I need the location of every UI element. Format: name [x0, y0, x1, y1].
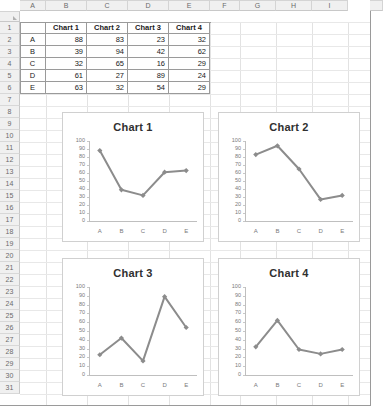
table-cell-B-2[interactable]: 94 — [87, 46, 128, 58]
table-header-chart-3[interactable]: Chart 3 — [128, 22, 169, 34]
table-cell-C-3[interactable]: 16 — [128, 58, 169, 70]
grid-line-horizontal — [20, 106, 370, 107]
row-header-10[interactable]: 10 — [0, 130, 20, 142]
row-header-8[interactable]: 8 — [0, 106, 20, 118]
column-header-a[interactable]: A — [20, 0, 46, 11]
table-cell-A-2[interactable]: 83 — [87, 34, 128, 46]
row-header-9[interactable]: 9 — [0, 118, 20, 130]
table-cell-D-4[interactable]: 24 — [169, 70, 210, 82]
row-header-31[interactable]: 31 — [0, 382, 20, 394]
table-header-chart-1[interactable]: Chart 1 — [46, 22, 87, 34]
column-header-f[interactable]: F — [210, 0, 240, 11]
table-cell-E-4[interactable]: 29 — [169, 82, 210, 94]
chart-plot-2 — [219, 113, 361, 243]
chart-4[interactable]: Chart 41009080706050403020100ABCDE — [218, 258, 360, 396]
chart-1[interactable]: Chart 11009080706050403020100ABCDE — [62, 112, 204, 242]
table-cell-B-3[interactable]: 42 — [128, 46, 169, 58]
row-header-24[interactable]: 24 — [0, 298, 20, 310]
select-all-corner[interactable] — [0, 11, 20, 22]
grid-bottom-border — [0, 405, 371, 406]
row-header-14[interactable]: 14 — [0, 178, 20, 190]
table-row-label-B[interactable]: B — [20, 46, 46, 58]
column-header-g[interactable]: G — [240, 0, 276, 11]
grid-line-horizontal — [20, 94, 370, 95]
table-header-chart-4[interactable]: Chart 4 — [169, 22, 210, 34]
row-header-6[interactable]: 6 — [0, 82, 20, 94]
row-header-30[interactable]: 30 — [0, 370, 20, 382]
series-marker — [340, 347, 345, 352]
table-header-chart-2[interactable]: Chart 2 — [87, 22, 128, 34]
table-top-border — [20, 22, 211, 23]
table-cell-E-2[interactable]: 32 — [87, 82, 128, 94]
row-header-2[interactable]: 2 — [0, 34, 20, 46]
row-header-3[interactable]: 3 — [0, 46, 20, 58]
grid-line-horizontal — [20, 250, 370, 251]
row-header-22[interactable]: 22 — [0, 274, 20, 286]
table-row-label-D[interactable]: D — [20, 70, 46, 82]
column-header-e[interactable]: E — [169, 0, 210, 11]
column-header-partial[interactable] — [370, 0, 383, 11]
table-left-border — [20, 22, 21, 94]
row-header-4[interactable]: 4 — [0, 58, 20, 70]
table-cell-A-1[interactable]: 88 — [46, 34, 87, 46]
row-header-12[interactable]: 12 — [0, 154, 20, 166]
row-header-7[interactable]: 7 — [0, 94, 20, 106]
table-row-label-A[interactable]: A — [20, 34, 46, 46]
row-header-13[interactable]: 13 — [0, 166, 20, 178]
row-header-29[interactable]: 29 — [0, 358, 20, 370]
chart-plot-1 — [63, 113, 205, 243]
table-cell-B-1[interactable]: 39 — [46, 46, 87, 58]
table-cell-E-1[interactable]: 63 — [46, 82, 87, 94]
table-cell-E-3[interactable]: 54 — [128, 82, 169, 94]
table-row-label-C[interactable]: C — [20, 58, 46, 70]
table-cell-B-4[interactable]: 62 — [169, 46, 210, 58]
row-header-25[interactable]: 25 — [0, 310, 20, 322]
series-line — [100, 151, 186, 196]
table-cell-C-4[interactable]: 29 — [169, 58, 210, 70]
chart-plot-3 — [63, 259, 205, 397]
column-header-i[interactable]: I — [312, 0, 348, 11]
spreadsheet-canvas: ABCDEFGHI1234567891011121314151617181920… — [0, 0, 383, 418]
table-cell-D-1[interactable]: 61 — [46, 70, 87, 82]
column-header-c[interactable]: C — [87, 0, 128, 11]
row-header-18[interactable]: 18 — [0, 226, 20, 238]
row-header-23[interactable]: 23 — [0, 286, 20, 298]
table-row-label-E[interactable]: E — [20, 82, 46, 94]
table-cell-a1[interactable] — [20, 22, 46, 34]
row-header-17[interactable]: 17 — [0, 214, 20, 226]
table-cell-A-3[interactable]: 23 — [128, 34, 169, 46]
column-header-d[interactable]: D — [128, 0, 169, 11]
table-cell-C-2[interactable]: 65 — [87, 58, 128, 70]
table-cell-C-1[interactable]: 32 — [46, 58, 87, 70]
row-header-27[interactable]: 27 — [0, 334, 20, 346]
row-header-11[interactable]: 11 — [0, 142, 20, 154]
row-header-28[interactable]: 28 — [0, 346, 20, 358]
row-header-21[interactable]: 21 — [0, 262, 20, 274]
column-header-b[interactable]: B — [46, 0, 87, 11]
row-header-20[interactable]: 20 — [0, 250, 20, 262]
row-header-26[interactable]: 26 — [0, 322, 20, 334]
series-line — [256, 146, 342, 200]
column-header-h[interactable]: H — [276, 0, 312, 11]
chart-plot-4 — [219, 259, 361, 397]
series-marker — [340, 193, 345, 198]
table-cell-A-4[interactable]: 32 — [169, 34, 210, 46]
chart-3[interactable]: Chart 31009080706050403020100ABCDE — [62, 258, 204, 396]
grid-right-border — [370, 11, 371, 405]
row-header-16[interactable]: 16 — [0, 202, 20, 214]
table-cell-D-3[interactable]: 89 — [128, 70, 169, 82]
series-line — [100, 297, 186, 361]
series-marker — [184, 168, 189, 173]
row-header-1[interactable]: 1 — [0, 22, 20, 34]
series-marker — [318, 351, 323, 356]
chart-2[interactable]: Chart 21009080706050403020100ABCDE — [218, 112, 360, 242]
table-cell-D-2[interactable]: 27 — [87, 70, 128, 82]
row-header-5[interactable]: 5 — [0, 70, 20, 82]
row-header-19[interactable]: 19 — [0, 238, 20, 250]
row-header-15[interactable]: 15 — [0, 190, 20, 202]
